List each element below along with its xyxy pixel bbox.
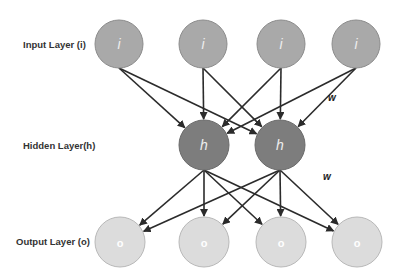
- hidden-layer-label: Hidden Layer(h): [23, 140, 95, 151]
- output-node-1: o: [95, 217, 145, 267]
- edge-input-hidden-1-1: [119, 68, 185, 128]
- input-node-2: i: [179, 20, 227, 68]
- hidden-node-1: h: [179, 120, 229, 170]
- edge-hidden-output-1-3: [204, 170, 262, 224]
- output-node-symbol: o: [201, 237, 208, 249]
- edge-hidden-output-2-2: [223, 170, 280, 224]
- output-node-4: o: [332, 217, 382, 267]
- weight-label-hidden-output: w: [323, 171, 332, 182]
- input-node-3: i: [257, 20, 305, 68]
- edge-hidden-output-2-3: [280, 170, 281, 216]
- input-node-1: i: [95, 20, 143, 68]
- output-node-symbol: o: [354, 237, 361, 249]
- input-layer-label: Input Layer (i): [23, 39, 86, 50]
- output-node-symbol: o: [117, 237, 124, 249]
- output-layer-label: Output Layer (o): [16, 236, 90, 247]
- weight-label-input-hidden: w: [328, 92, 337, 103]
- input-node-4: i: [332, 20, 380, 68]
- edge-input-hidden-3-2: [280, 68, 281, 119]
- output-node-symbol: o: [278, 237, 285, 249]
- output-node-3: o: [256, 217, 306, 267]
- neural-network-diagram: iiiihhoooo Input Layer (i) Hidden Layer(…: [0, 0, 403, 275]
- hidden-node-symbol: h: [200, 137, 208, 153]
- network-svg: iiiihhoooo Input Layer (i) Hidden Layer(…: [0, 0, 403, 275]
- hidden-node-2: h: [255, 120, 305, 170]
- hidden-node-symbol: h: [276, 137, 284, 153]
- nodes-group: iiiihhoooo: [95, 20, 382, 267]
- edges-group: [119, 68, 356, 231]
- output-node-2: o: [179, 217, 229, 267]
- edge-input-hidden-2-1: [203, 68, 204, 119]
- edge-hidden-output-1-1: [140, 170, 204, 225]
